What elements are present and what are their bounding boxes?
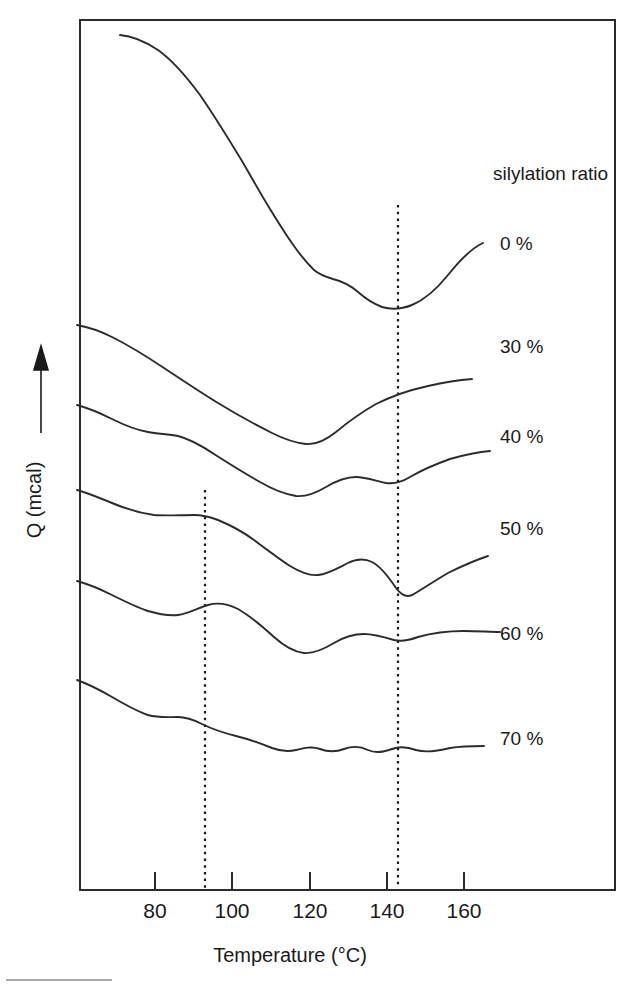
curve-50-percent — [77, 490, 488, 596]
legend-item-70-percent: 70 % — [500, 728, 543, 749]
legend-title: silylation ratio — [493, 163, 608, 184]
curve-40-percent — [77, 405, 490, 496]
legend-item-60-percent: 60 % — [500, 623, 543, 644]
curve-30-percent — [77, 325, 472, 444]
legend-item-40-percent: 40 % — [500, 426, 543, 447]
x-axis-title: Temperature (°C) — [213, 944, 367, 966]
x-axis-ticks — [155, 872, 464, 890]
x-tick-label-80: 80 — [143, 899, 166, 922]
x-axis-tick-labels: 80 100 120 140 160 — [143, 899, 481, 922]
curve-0-percent — [120, 35, 483, 309]
legend-item-50-percent: 50 % — [500, 518, 543, 539]
x-tick-label-100: 100 — [214, 899, 249, 922]
legend-item-30-percent: 30 % — [500, 336, 543, 357]
curve-group — [77, 35, 500, 752]
x-tick-label-120: 120 — [292, 899, 327, 922]
curve-60-percent — [77, 581, 500, 653]
dsc-thermogram-figure: 80 100 120 140 160 Temperature (°C) Q (m… — [0, 0, 632, 984]
y-axis-title: Q (mcal) — [23, 462, 45, 539]
legend-item-0-percent: 0 % — [500, 233, 533, 254]
y-axis-label-group: Q (mcal) — [23, 346, 48, 538]
y-axis-arrow-head — [34, 346, 48, 370]
plot-frame — [80, 20, 615, 890]
legend: silylation ratio 0 % 30 % 40 % 50 % 60 %… — [493, 163, 608, 749]
chart-canvas: 80 100 120 140 160 Temperature (°C) Q (m… — [0, 0, 632, 984]
x-tick-label-140: 140 — [369, 899, 404, 922]
curve-70-percent — [77, 680, 484, 752]
x-tick-label-160: 160 — [446, 899, 481, 922]
